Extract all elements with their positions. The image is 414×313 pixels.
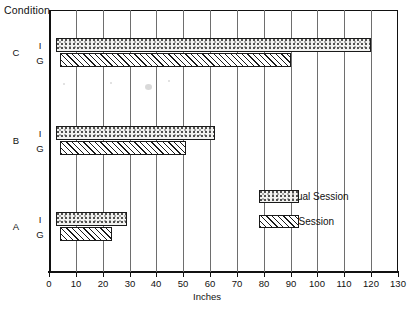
x-axis-line: [48, 271, 399, 273]
condition-b-sub-label-g: G: [36, 142, 43, 153]
bar-b-group: [60, 141, 186, 155]
legend-item-group: Group Session: [259, 216, 334, 227]
condition-label-b: B: [13, 135, 19, 146]
x-axis-tick-label: 60: [205, 278, 216, 289]
bar-c-individual: [56, 38, 371, 52]
x-axis-tick-label: 120: [363, 278, 379, 289]
x-axis-tick: [237, 272, 238, 277]
bar-b-individual: [56, 126, 216, 140]
condition-c-sub-label-g: G: [36, 54, 43, 65]
x-axis-tick: [210, 272, 211, 277]
gridline: [371, 10, 372, 272]
x-axis-tick-label: 30: [125, 278, 136, 289]
condition-a-sub-label-i: I: [39, 213, 42, 224]
x-axis-tick-label: 50: [178, 278, 189, 289]
paper-speck: [63, 83, 65, 85]
bar-a-individual: [56, 212, 127, 226]
x-axis-tick: [49, 272, 50, 277]
x-axis-tick-label: 100: [309, 278, 325, 289]
condition-label-c: C: [13, 47, 20, 58]
x-axis-tick: [264, 272, 265, 277]
x-axis-tick: [371, 272, 372, 277]
x-axis-tick-label: 20: [98, 278, 109, 289]
legend-item-individual: Individual Session: [259, 191, 349, 202]
x-axis-tick: [130, 272, 131, 277]
x-axis-tick-label: 90: [286, 278, 297, 289]
x-axis-tick: [103, 272, 104, 277]
paper-speck: [168, 80, 170, 82]
legend-swatch-group-icon: [259, 215, 299, 228]
legend-swatch-individual-icon: [259, 190, 299, 203]
x-axis-tick-label: 70: [232, 278, 243, 289]
x-axis-tick-label: 110: [336, 278, 351, 289]
x-axis-tick-label: 10: [71, 278, 82, 289]
x-axis-tick: [344, 272, 345, 277]
bar-c-group: [60, 53, 291, 67]
figure-canvas: Condition 010203040506070809010011012013…: [0, 0, 414, 313]
paper-speck: [145, 84, 152, 90]
x-axis-tick: [398, 272, 399, 277]
paper-speck: [110, 82, 112, 84]
x-axis-tick-label: 40: [151, 278, 162, 289]
condition-label-a: A: [13, 221, 19, 232]
x-axis-tick: [156, 272, 157, 277]
axis-title-condition: Condition: [4, 4, 50, 16]
x-axis-tick: [291, 272, 292, 277]
condition-a-sub-label-g: G: [36, 228, 43, 239]
x-axis-tick-label: 0: [46, 278, 51, 289]
x-axis-tick: [76, 272, 77, 277]
x-axis-tick: [183, 272, 184, 277]
x-axis-tick-label: 130: [390, 278, 406, 289]
x-axis-tick-label: 80: [259, 278, 270, 289]
bar-a-group: [60, 227, 112, 241]
condition-c-sub-label-i: I: [39, 39, 42, 50]
x-axis-tick: [317, 272, 318, 277]
condition-b-sub-label-i: I: [39, 127, 42, 138]
x-axis-label: Inches: [0, 291, 414, 302]
